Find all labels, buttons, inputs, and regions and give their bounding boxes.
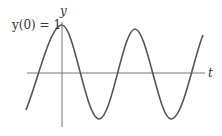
y-axis-label: y xyxy=(59,4,67,18)
cosine-graph: y t y(0) = 1 xyxy=(0,0,222,136)
t-axis-label: t xyxy=(208,66,213,80)
initial-value-annotation: y(0) = 1 xyxy=(11,18,61,32)
oscillation-curve xyxy=(26,25,203,119)
